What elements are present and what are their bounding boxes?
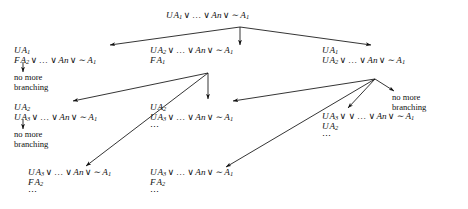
formula-line: UA3∨…∨An∨∼A1: [14, 113, 97, 123]
level1-middle-node: UA2∨…∨An∨∼A1FA1: [150, 46, 233, 66]
continuation-ellipsis: ⋯: [150, 188, 233, 197]
edge-right-fan-down: [348, 79, 375, 108]
edge-mid-fan-to-l2-left: [73, 73, 208, 101]
formula-line: FA2: [150, 178, 233, 188]
no-more-branching-left-upper: no morebranching: [14, 73, 48, 92]
no-more-branching-left-lower: no morebranching: [14, 130, 48, 149]
level3-left-node: UA3∨…∨An∨∼A1FA2⋯: [28, 168, 111, 197]
formula-line: UA2∨…∨An∨∼A1: [150, 46, 233, 56]
formula-line: UA3∨∨…∨An∨∼A1: [322, 112, 414, 122]
continuation-ellipsis: ⋯: [150, 123, 233, 132]
formula-line: FA2: [28, 178, 111, 188]
no-more-branching-right: no morebranching: [392, 93, 426, 112]
note-line-2: branching: [14, 83, 48, 93]
formula-line: UA1∨…∨An∨∼A1: [166, 11, 249, 21]
level2-right-node: UA3∨∨…∨An∨∼A1UA2⋯: [322, 112, 414, 141]
edge-root-to-right: [240, 27, 371, 45]
level3-middle-node: UA3∨…∨An∨∼A1FA2⋯: [150, 168, 233, 197]
formula-line: UA3∨…∨An∨∼A1: [150, 113, 233, 123]
continuation-ellipsis: ⋯: [322, 132, 414, 141]
edge-right-fan-to-l2-left: [233, 79, 375, 101]
note-line-2: branching: [392, 103, 426, 113]
formula-line: UA2∨…∨An∨∼A1: [322, 56, 405, 66]
note-line-2: branching: [14, 140, 48, 150]
root-node: UA1∨…∨An∨∼A1: [166, 11, 249, 21]
level2-middle-node: UA2UA3∨…∨An∨∼A1⋯: [150, 103, 233, 132]
level1-right-node: UA1UA2∨…∨An∨∼A1: [322, 46, 405, 66]
level2-left-node: UA2UA3∨…∨An∨∼A1: [14, 103, 97, 123]
continuation-ellipsis: ⋯: [28, 188, 111, 197]
formula-line: UA3∨…∨An∨∼A1: [150, 168, 233, 178]
formula-line: UA2: [322, 122, 414, 132]
edge-root-to-left: [110, 27, 240, 45]
edge-right-fan-to-note: [375, 79, 394, 91]
formula-line: FA1: [150, 56, 233, 66]
level1-left-node: UA1FA2∨…∨An∨∼A1: [14, 46, 96, 66]
formula-line: FA2∨…∨An∨∼A1: [14, 56, 96, 66]
formula-line: UA3∨…∨An∨∼A1: [28, 168, 111, 178]
tableau-figure: UA1∨…∨An∨∼A1UA1FA2∨…∨An∨∼A1UA2∨…∨An∨∼A1F…: [0, 0, 468, 209]
